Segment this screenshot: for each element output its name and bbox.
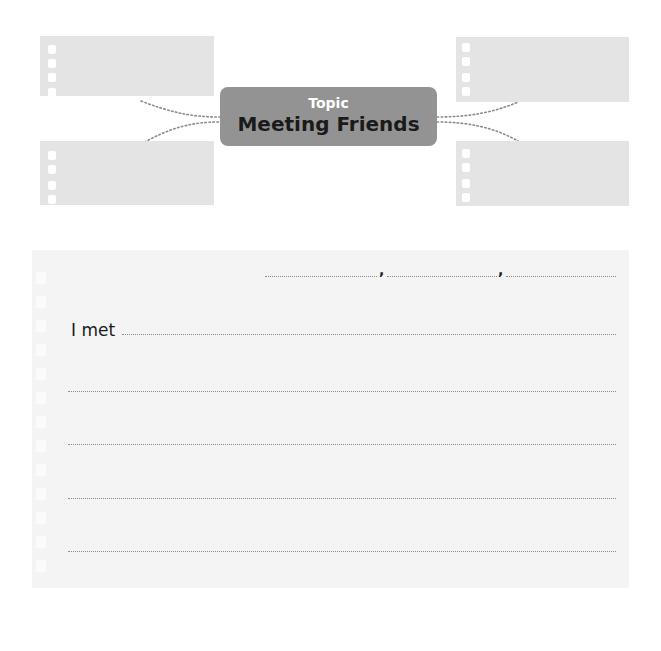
writing-line-3[interactable]	[68, 498, 616, 499]
binder-hole	[36, 344, 46, 356]
writing-line-1[interactable]	[68, 391, 616, 392]
binder-hole	[36, 272, 46, 284]
note-top-left[interactable]	[40, 36, 214, 96]
binder-hole	[462, 57, 470, 66]
binder-hole	[462, 179, 470, 188]
binder-hole	[462, 193, 470, 202]
binder-hole	[462, 43, 470, 52]
writing-sheet: , , I met	[32, 250, 629, 588]
blank-field-i-met[interactable]	[122, 334, 616, 335]
binder-hole	[48, 165, 56, 174]
writing-line-2[interactable]	[68, 444, 616, 445]
binder-hole	[36, 488, 46, 500]
comma-separator: ,	[498, 262, 503, 278]
binder-hole	[462, 73, 470, 82]
binder-hole	[36, 560, 46, 572]
note-bottom-left[interactable]	[40, 141, 214, 205]
binder-hole	[48, 59, 56, 68]
comma-separator: ,	[379, 262, 384, 278]
binder-hole	[36, 512, 46, 524]
connector-top-right	[437, 102, 518, 117]
binder-hole	[462, 163, 470, 172]
topic-title: Meeting Friends	[220, 112, 437, 136]
binder-hole	[36, 464, 46, 476]
binder-hole	[36, 296, 46, 308]
binder-hole	[36, 368, 46, 380]
blank-field-1[interactable]	[265, 276, 377, 277]
binder-hole	[48, 45, 56, 54]
binder-hole	[48, 151, 56, 160]
binder-hole	[48, 181, 56, 190]
sentence-start: I met	[71, 320, 115, 340]
writing-line-4[interactable]	[68, 551, 616, 552]
note-top-right[interactable]	[456, 37, 629, 102]
binder-hole	[36, 320, 46, 332]
binder-hole	[36, 536, 46, 548]
binder-hole	[48, 88, 56, 97]
blank-field-3[interactable]	[506, 276, 616, 277]
note-bottom-right[interactable]	[456, 141, 629, 206]
topic-label: Topic	[220, 95, 437, 111]
connector-bottom-right	[437, 122, 518, 141]
binder-hole	[36, 416, 46, 428]
blank-field-2[interactable]	[387, 276, 497, 277]
binder-hole	[462, 149, 470, 158]
connector-top-left	[141, 101, 220, 117]
binder-hole	[48, 73, 56, 82]
binder-hole	[36, 440, 46, 452]
binder-hole	[36, 392, 46, 404]
topic-box: Topic Meeting Friends	[220, 87, 437, 146]
binder-hole	[48, 195, 56, 204]
binder-hole	[462, 87, 470, 96]
